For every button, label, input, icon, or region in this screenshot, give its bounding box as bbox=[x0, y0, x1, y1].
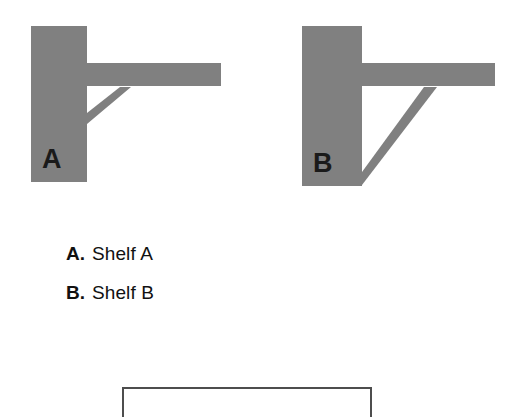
option-a-key: A. bbox=[66, 243, 85, 265]
option-a-label: Shelf A bbox=[92, 243, 153, 265]
shelf-b-letter: B bbox=[313, 148, 333, 178]
option-a[interactable]: A. Shelf A bbox=[66, 243, 426, 265]
option-b[interactable]: B. Shelf B bbox=[66, 282, 426, 304]
option-b-label: Shelf B bbox=[92, 282, 154, 304]
shelf-a-arm bbox=[87, 63, 221, 86]
shelf-diagrams: A B bbox=[0, 0, 519, 200]
shelf-a-letter: A bbox=[42, 144, 62, 174]
shelf-b-diagram: B bbox=[302, 26, 495, 186]
shelf-b-brace bbox=[362, 87, 437, 185]
answer-input-box[interactable] bbox=[122, 387, 372, 417]
answer-options: A. Shelf A B. Shelf B bbox=[66, 243, 426, 321]
shelf-b-arm bbox=[362, 63, 495, 86]
option-b-key: B. bbox=[66, 282, 85, 304]
shelf-a-diagram: A bbox=[31, 26, 221, 182]
shelf-a-brace bbox=[87, 87, 131, 124]
